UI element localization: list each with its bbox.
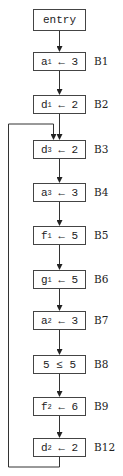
block-label: B1 bbox=[94, 52, 108, 71]
block-label: B7 bbox=[94, 311, 108, 330]
block-label: B9 bbox=[94, 397, 108, 416]
block-b12: d2 ← 2 bbox=[33, 438, 86, 457]
block-b5: f1 ← 5 bbox=[33, 226, 86, 245]
block-b3: d3 ← 2 bbox=[33, 140, 86, 159]
block-b2: d1 ← 2 bbox=[33, 95, 86, 114]
block-label: B5 bbox=[94, 226, 108, 245]
entry-node: entry bbox=[33, 9, 86, 31]
block-label: B12 bbox=[94, 438, 115, 457]
block-b8: 5 ≤ 5 bbox=[33, 355, 86, 374]
block-label: B6 bbox=[94, 270, 108, 289]
block-b4: a3 ← 3 bbox=[33, 183, 86, 202]
block-label: B2 bbox=[94, 95, 108, 114]
block-b7: a2 ← 3 bbox=[33, 311, 86, 330]
block-label: B3 bbox=[94, 140, 108, 159]
block-b6: g1 ← 5 bbox=[33, 270, 86, 289]
block-label: B4 bbox=[94, 183, 108, 202]
entry-label: entry bbox=[43, 14, 76, 26]
block-b9: f2 ← 6 bbox=[33, 397, 86, 416]
block-label: B8 bbox=[94, 355, 108, 374]
block-b1: a1 ← 3 bbox=[33, 52, 86, 71]
